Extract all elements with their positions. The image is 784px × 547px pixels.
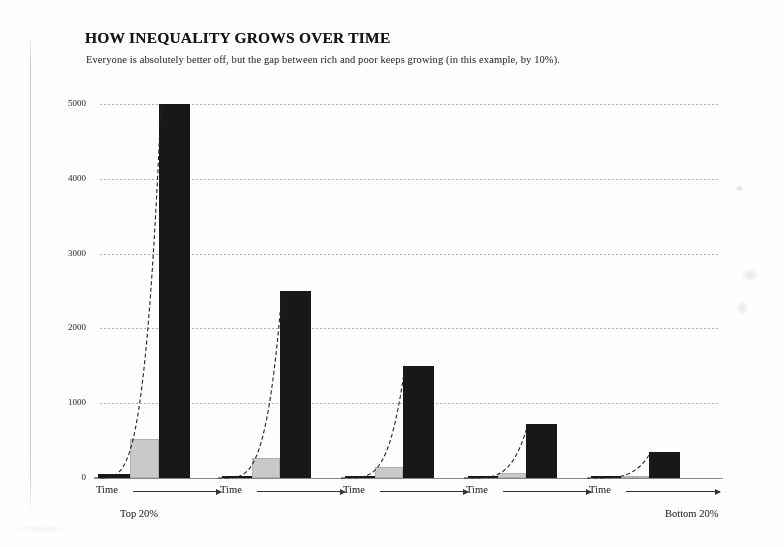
exponential-growth-curve xyxy=(0,0,784,547)
chart-plot-area: 500040003000200010000TimeTimeTimeTimeTim… xyxy=(0,0,784,547)
caption-top-quintile: Top 20% xyxy=(120,508,158,519)
caption-bottom-quintile: Bottom 20% xyxy=(665,508,718,519)
x-axis-time-label: Time xyxy=(589,484,611,495)
time-arrow-icon xyxy=(626,491,720,492)
